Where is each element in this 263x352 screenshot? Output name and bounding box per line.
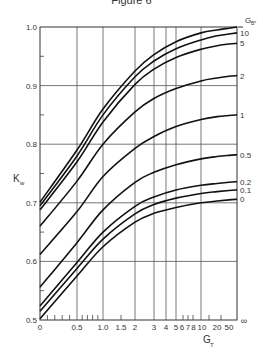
x-tick-label: 3 [152, 323, 157, 332]
x-tick-label: 10 [198, 323, 207, 332]
series-label: 0.5 [240, 151, 252, 160]
x-tick-label: 7 [186, 323, 191, 332]
chart: 0.50.60.70.80.91.0 00.51.01.523456781020… [0, 0, 263, 352]
x-tick-label: 1.5 [115, 323, 127, 332]
x-tick-label: 0 [38, 323, 43, 332]
y-axis-label: K w [13, 173, 25, 186]
series-label: 5 [240, 39, 245, 48]
series-label: 0.1 [240, 186, 252, 195]
y-axis-label-sub: w [19, 180, 25, 186]
series-label: 10 [240, 29, 249, 38]
x-tick-label: 50 [225, 323, 234, 332]
legend-title: G B* [245, 16, 256, 26]
y-tick-label: 0.7 [26, 199, 38, 208]
legend-series-labels: 105210.50.20.10 [238, 27, 252, 204]
series-line-0 [40, 199, 237, 319]
y-tick-label: 1.0 [26, 23, 38, 32]
series-label: 2 [240, 72, 245, 81]
y-axis-tick-labels: 0.50.60.70.80.91.0 [26, 23, 38, 325]
x-tick-label: 6 [180, 323, 185, 332]
x-axis-tick-labels: 00.51.01.52345678102050∞ [38, 316, 247, 332]
x-tick-label: 0.5 [71, 323, 83, 332]
legend-title-sub: B* [251, 20, 256, 26]
series-label: 1 [240, 111, 245, 120]
x-tick-label: 4 [164, 323, 169, 332]
x-tick-label: 5 [174, 323, 179, 332]
x-axis-label-sub: T [210, 342, 214, 348]
y-tick-label: 0.8 [26, 140, 38, 149]
x-tick-label: 2 [133, 323, 138, 332]
series-label: 0 [240, 195, 245, 204]
y-tick-label: 0.5 [26, 316, 38, 325]
x-axis-label: G T [203, 334, 214, 348]
series-line-50 [40, 27, 237, 202]
x-tick-label: ∞ [241, 316, 247, 326]
x-tick-label: 20 [213, 323, 222, 332]
y-tick-label: 0.9 [26, 82, 38, 91]
y-axis-label-main: K [13, 173, 20, 184]
x-tick-label: 8 [191, 323, 196, 332]
chart-series [40, 27, 237, 319]
y-tick-label: 0.6 [26, 257, 38, 266]
x-tick-label: 1.0 [97, 323, 109, 332]
series-line-0_2 [40, 182, 237, 306]
